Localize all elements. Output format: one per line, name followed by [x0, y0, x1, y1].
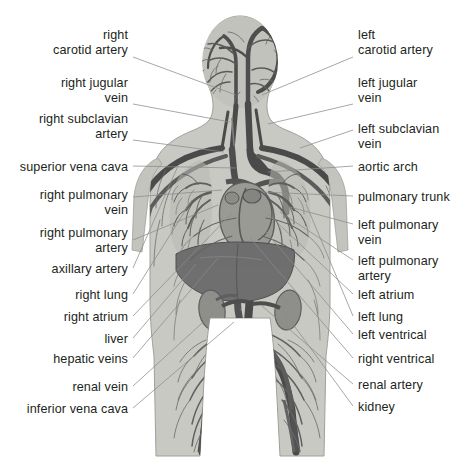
label-line: right subclavian — [0, 112, 128, 127]
label-left-carotid-artery: leftcarotid artery — [358, 28, 454, 57]
label-kidney: kidney — [358, 400, 454, 415]
label-line: right pulmonary — [0, 188, 128, 203]
label-left-ventrical: left ventrical — [358, 328, 454, 343]
label-line: renal artery — [358, 378, 454, 393]
label-right-ventrical: right ventrical — [358, 352, 454, 367]
label-right-atrium: right atrium — [0, 310, 128, 325]
label-right-lung: right lung — [0, 288, 128, 303]
label-line: left pulmonary — [358, 218, 454, 233]
label-line: right pulmonary — [0, 226, 128, 241]
label-line: left atrium — [358, 288, 454, 303]
label-line: aortic arch — [358, 160, 454, 175]
label-left-pulmonary-vein: left pulmonaryvein — [358, 218, 454, 247]
label-right-subclavian-artery: right subclavianartery — [0, 112, 128, 141]
label-line: vein — [358, 233, 454, 248]
label-left-jugular-vein: left jugularvein — [358, 76, 454, 105]
label-line: kidney — [358, 400, 454, 415]
label-line: left subclavian — [358, 122, 454, 137]
label-line: left lung — [358, 310, 454, 325]
label-line: renal vein — [0, 380, 128, 395]
label-line: pulmonary trunk — [358, 190, 454, 205]
label-liver: liver — [0, 332, 128, 347]
label-line: right ventrical — [358, 352, 454, 367]
label-line: left jugular — [358, 76, 454, 91]
label-line: inferior vena cava — [0, 402, 128, 417]
label-aortic-arch: aortic arch — [358, 160, 454, 175]
label-line: carotid artery — [0, 43, 128, 58]
label-line: left pulmonary — [358, 254, 454, 269]
label-right-pulmonary-artery: right pulmonaryartery — [0, 226, 128, 255]
label-right-pulmonary-vein: right pulmonaryvein — [0, 188, 128, 217]
label-left-pulmonary-artery: left pulmonaryartery — [358, 254, 454, 283]
label-superior-vena-cava: superior vena cava — [0, 160, 128, 175]
label-left-subclavian-vein: left subclavianvein — [358, 122, 454, 151]
label-inferior-vena-cava: inferior vena cava — [0, 402, 128, 417]
label-right-carotid-artery: rightcarotid artery — [0, 28, 128, 57]
circulatory-system-diagram: rightcarotid arteryright jugularveinrigh… — [0, 0, 454, 464]
label-line: carotid artery — [358, 43, 454, 58]
head-vessels — [196, 14, 282, 112]
label-line: right — [0, 28, 128, 43]
label-line: right lung — [0, 288, 128, 303]
label-line: right atrium — [0, 310, 128, 325]
label-line: liver — [0, 332, 128, 347]
label-line: left — [358, 28, 454, 43]
label-pulmonary-trunk: pulmonary trunk — [358, 190, 454, 205]
label-line: right jugular — [0, 76, 128, 91]
label-line: vein — [358, 91, 454, 106]
label-line: left ventrical — [358, 328, 454, 343]
label-axillary-artery: axillary artery — [0, 262, 128, 277]
label-line: axillary artery — [0, 262, 128, 277]
label-left-lung: left lung — [358, 310, 454, 325]
label-renal-artery: renal artery — [358, 378, 454, 393]
label-renal-vein: renal vein — [0, 380, 128, 395]
label-line: vein — [358, 137, 454, 152]
label-line: hepatic veins — [0, 352, 128, 367]
label-line: artery — [0, 127, 128, 142]
label-line: artery — [0, 241, 128, 256]
label-line: artery — [358, 269, 454, 284]
label-hepatic-veins: hepatic veins — [0, 352, 128, 367]
label-left-atrium: left atrium — [358, 288, 454, 303]
label-line: vein — [0, 203, 128, 218]
label-right-jugular-vein: right jugularvein — [0, 76, 128, 105]
label-line: vein — [0, 91, 128, 106]
label-line: superior vena cava — [0, 160, 128, 175]
